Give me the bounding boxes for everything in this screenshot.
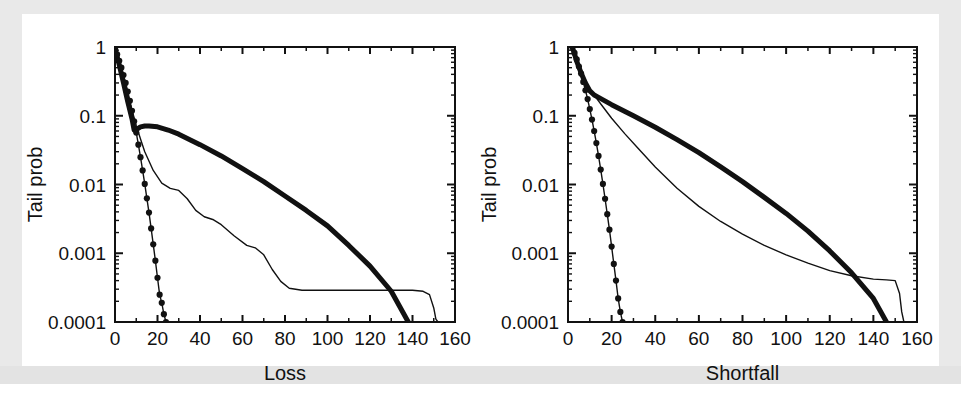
series-marker — [598, 166, 604, 172]
series-marker — [600, 181, 606, 187]
series-marker — [595, 153, 601, 159]
series-marker — [580, 79, 586, 85]
x-tick-label: 60 — [688, 328, 709, 349]
x-tick-label: 100 — [770, 328, 802, 349]
series-marker — [617, 309, 623, 315]
y-axis-label: Tail prob — [478, 147, 500, 223]
series-marker — [615, 295, 621, 301]
x-tick-label: 20 — [601, 328, 622, 349]
x-axis-label: Shortfall — [706, 362, 779, 384]
series-marker — [619, 319, 625, 325]
series-marker — [613, 278, 619, 284]
x-tick-label: 120 — [814, 328, 846, 349]
series-marker — [571, 50, 577, 56]
series-line-thin-curve-line — [572, 47, 904, 322]
series-line-thick-line — [572, 47, 886, 322]
series-marker — [587, 106, 593, 112]
y-tick-label: 0.1 — [533, 106, 559, 127]
x-tick-label: 80 — [732, 328, 753, 349]
x-tick-label: 0 — [563, 328, 574, 349]
series-marker — [576, 63, 582, 69]
x-tick-label: 40 — [645, 328, 666, 349]
x-tick-label: 140 — [858, 328, 890, 349]
series-marker — [609, 243, 615, 249]
y-tick-label: 0.0001 — [501, 312, 559, 333]
series-marker — [582, 87, 588, 93]
series-marker — [569, 44, 575, 50]
series-marker — [589, 116, 595, 122]
series-marker — [606, 227, 612, 233]
y-tick-label: 1 — [548, 37, 559, 58]
figure-root: 02040608010012014016010.10.010.0010.0001… — [0, 0, 961, 414]
series-marker — [585, 96, 591, 102]
series-marker — [602, 196, 608, 202]
series-marker — [578, 71, 584, 77]
y-tick-label: 0.01 — [522, 175, 559, 196]
series-marker — [591, 128, 597, 134]
y-tick-label: 0.001 — [511, 243, 559, 264]
series-marker — [593, 140, 599, 146]
series-marker — [574, 56, 580, 62]
chart-svg: 02040608010012014016010.10.010.0010.0001… — [0, 0, 961, 414]
series-marker — [604, 211, 610, 217]
x-tick-label: 160 — [901, 328, 933, 349]
series-marker — [611, 261, 617, 267]
